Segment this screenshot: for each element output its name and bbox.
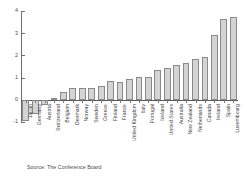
x-tick-mark	[45, 100, 46, 103]
bar	[211, 35, 218, 100]
bar	[126, 79, 133, 99]
x-axis-label: France	[122, 104, 127, 120]
x-axis-label: Ireland	[216, 104, 221, 120]
x-axis-label: Denmark	[75, 104, 80, 125]
x-tick-mark	[214, 100, 215, 103]
bar	[79, 88, 86, 100]
bar	[173, 65, 180, 100]
bar	[145, 77, 152, 100]
x-tick-mark	[73, 100, 74, 103]
x-tick-mark	[63, 100, 64, 103]
x-tick-mark	[158, 100, 159, 103]
y-tick-label: -1	[0, 119, 18, 124]
bar	[60, 92, 67, 99]
y-tick-label: 1	[0, 75, 18, 80]
x-axis-category-labels: JapanGermanyAustriaSwitzerlandBelgiumDen…	[21, 104, 238, 162]
x-axis-label: Canada	[207, 104, 212, 122]
x-tick-mark	[54, 100, 55, 103]
x-tick-mark	[120, 100, 121, 103]
x-tick-mark	[139, 100, 140, 103]
x-tick-mark	[148, 100, 149, 103]
x-tick-mark	[111, 100, 112, 103]
x-axis-label: United Kingdom	[132, 104, 137, 141]
x-axis-label: Portugal	[150, 104, 155, 123]
x-axis-label: Austria	[47, 104, 52, 120]
x-tick-mark	[177, 100, 178, 103]
x-axis-label: Finland	[113, 104, 118, 121]
x-axis-label: Germany	[37, 104, 42, 125]
x-tick-mark	[233, 100, 234, 103]
x-tick-mark	[82, 100, 83, 103]
x-axis-label: Switzerland	[56, 104, 61, 131]
x-tick-mark	[224, 100, 225, 103]
x-axis-label: United States	[169, 104, 174, 135]
bar	[117, 82, 124, 100]
x-tick-mark	[130, 100, 131, 103]
y-tick-label: 4	[0, 8, 18, 13]
x-axis-label: New Zealand	[188, 104, 193, 135]
bar	[202, 57, 209, 100]
x-tick-mark	[26, 100, 27, 103]
x-axis-label: Italy	[141, 104, 146, 114]
y-tick-label: 3	[0, 31, 18, 36]
bar	[98, 86, 105, 100]
x-axis-label: Spain	[226, 104, 231, 117]
x-tick-mark	[101, 100, 102, 103]
bar	[183, 63, 190, 99]
y-tick-label: 0	[0, 97, 18, 102]
x-axis-label: Greece	[103, 104, 108, 121]
x-axis-label: Australia	[179, 104, 184, 124]
bar-chart-figure: -101234 JapanGermanyAustriaSwitzerlandBe…	[0, 0, 247, 181]
x-tick-mark	[196, 100, 197, 103]
x-axis-label: Belgium	[65, 104, 70, 123]
x-axis-label: Luxembourg	[235, 104, 240, 133]
bar	[192, 59, 199, 100]
bar	[154, 70, 161, 100]
x-tick-mark	[167, 100, 168, 103]
bar	[220, 19, 227, 99]
x-axis-label: Netherlands	[198, 104, 203, 132]
x-axis-label: Iceland	[160, 104, 165, 121]
bar	[136, 77, 143, 100]
x-axis-label: Norway	[84, 104, 89, 122]
x-axis-label: Japan	[28, 104, 33, 118]
y-tick-label: 2	[0, 53, 18, 58]
x-axis-label: Sweden	[94, 104, 99, 123]
x-tick-mark	[92, 100, 93, 103]
bar	[69, 88, 76, 100]
bar	[107, 81, 114, 100]
bar	[164, 68, 171, 100]
source-note: Source: The Conference Board	[27, 164, 102, 170]
x-tick-mark	[35, 100, 36, 103]
x-tick-mark	[186, 100, 187, 103]
bar	[230, 17, 237, 100]
bar	[88, 88, 95, 100]
x-tick-mark	[205, 100, 206, 103]
